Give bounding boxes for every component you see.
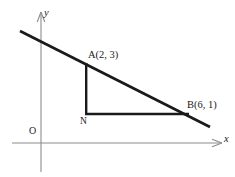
line-through-a-b [20, 31, 210, 127]
coordinate-geometry-figure: A(2, 3) B(6, 1) N O x y [0, 0, 235, 177]
origin-label: O [29, 126, 36, 136]
x-axis-label: x [224, 134, 229, 145]
y-axis-label: y [44, 8, 49, 19]
geometry-canvas [0, 0, 235, 177]
point-label-n: N [80, 117, 87, 127]
point-label-b: B(6, 1) [187, 100, 217, 111]
point-label-a: A(2, 3) [88, 50, 118, 61]
